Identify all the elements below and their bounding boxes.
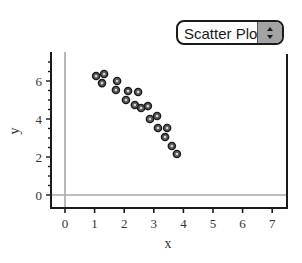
data-points — [92, 70, 180, 157]
x-tick-label: 0 — [62, 216, 69, 231]
data-point — [137, 104, 144, 111]
axis-ticks: 012345670246 — [36, 62, 276, 231]
y-axis-label: y — [7, 128, 22, 135]
data-point — [112, 86, 119, 93]
data-point — [135, 88, 142, 95]
data-point — [100, 70, 107, 77]
x-tick-label: 7 — [269, 216, 276, 231]
x-tick-label: 6 — [239, 216, 246, 231]
x-tick-label: 5 — [210, 216, 217, 231]
data-point — [144, 102, 151, 109]
data-point — [124, 87, 131, 94]
scatter-plot: 012345670246 x y — [0, 0, 302, 263]
y-tick-label: 4 — [36, 112, 43, 127]
y-tick-label: 0 — [36, 188, 43, 203]
y-tick-label: 6 — [36, 74, 43, 89]
data-point — [153, 112, 160, 119]
data-point — [98, 79, 105, 86]
data-point — [168, 142, 175, 149]
y-tick-label: 2 — [36, 150, 43, 165]
x-tick-label: 4 — [180, 216, 187, 231]
data-point — [146, 115, 153, 122]
data-point — [173, 150, 180, 157]
x-tick-label: 3 — [151, 216, 158, 231]
x-tick-label: 2 — [121, 216, 128, 231]
x-tick-label: 1 — [91, 216, 98, 231]
x-axis-label: x — [165, 236, 172, 251]
data-point — [161, 133, 168, 140]
data-point — [164, 124, 171, 131]
data-point — [92, 72, 99, 79]
data-point — [154, 124, 161, 131]
data-point — [122, 96, 129, 103]
data-point — [113, 77, 120, 84]
